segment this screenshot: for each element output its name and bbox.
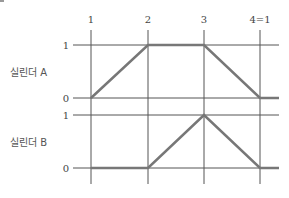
corner-artifact: [0, 0, 4, 2]
cylinder-b-label: 실린더 B: [10, 137, 47, 148]
step-label-3: 3: [201, 14, 207, 25]
displacement-step-diagram: 1 2 3 4=1 1 0 1 0 실린더 A 실린더 B: [0, 0, 289, 198]
cylinder-b-high-label: 1: [63, 110, 69, 121]
step-lines: [91, 30, 260, 184]
cylinder-a-low-label: 0: [63, 93, 69, 104]
cylinder-a-label: 실린더 A: [10, 67, 47, 78]
step-label-2: 2: [145, 14, 151, 25]
cylinder-b-trace: [91, 115, 279, 168]
step-label-1: 1: [88, 14, 94, 25]
cylinder-b-low-label: 0: [63, 163, 69, 174]
cylinder-a-high-label: 1: [63, 40, 69, 51]
level-lines: [73, 45, 279, 168]
cylinder-a-trace: [91, 45, 279, 98]
step-label-4: 4=1: [249, 14, 270, 25]
